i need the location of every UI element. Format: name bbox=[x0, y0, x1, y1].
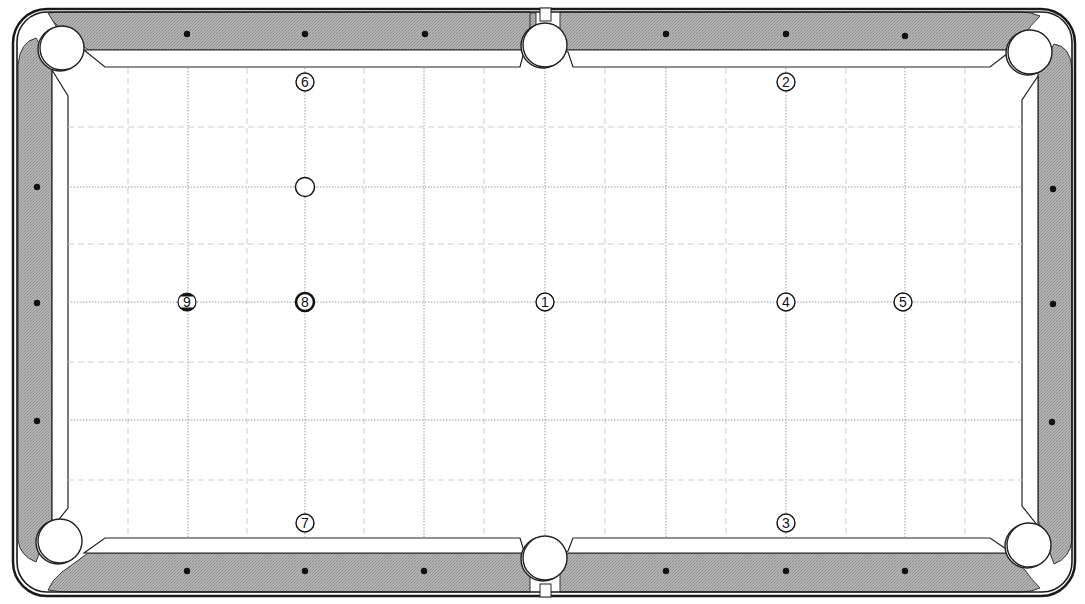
ball-number-label: 2 bbox=[782, 74, 790, 90]
ball-number-label: 4 bbox=[782, 294, 790, 310]
rail-top-left-main bbox=[48, 12, 530, 50]
cushion-bottom-left bbox=[84, 538, 530, 553]
ball-number-label: 3 bbox=[782, 515, 790, 531]
side-pocket-tab-top bbox=[540, 8, 551, 21]
diamond-marker-icon bbox=[34, 300, 40, 306]
ball-4: 4 bbox=[777, 293, 795, 311]
ball-number-label: 5 bbox=[899, 294, 907, 310]
ball-number-label: 1 bbox=[541, 294, 549, 310]
cushion-top-left bbox=[84, 50, 530, 67]
diamond-marker-icon bbox=[302, 31, 308, 37]
ball-number-label: 8 bbox=[301, 294, 309, 310]
diamond-marker-icon bbox=[1049, 419, 1055, 425]
pocket-bottom-right bbox=[1005, 523, 1051, 568]
pool-table-diagram: 123456789 bbox=[0, 0, 1085, 604]
diamond-marker-icon bbox=[663, 31, 669, 37]
cushion-bottom-right bbox=[562, 538, 1012, 553]
diamond-marker-icon bbox=[184, 31, 190, 37]
pool-table: 123456789 bbox=[0, 0, 1085, 604]
diamond-marker-icon bbox=[34, 418, 40, 424]
ball-2: 2 bbox=[777, 73, 795, 91]
ball-number-label: 7 bbox=[301, 515, 309, 531]
cushion-right bbox=[1022, 76, 1038, 526]
rail-bottom-right-main bbox=[560, 553, 1040, 592]
diamond-marker-icon bbox=[902, 568, 908, 574]
cue-ball bbox=[296, 178, 315, 197]
diamond-marker-icon bbox=[34, 184, 40, 190]
diamond-marker-icon bbox=[902, 33, 908, 39]
diamond-marker-icon bbox=[422, 31, 428, 37]
diamond-marker-icon bbox=[783, 568, 789, 574]
ball-7: 7 bbox=[296, 514, 314, 532]
ball-number-label: 9 bbox=[183, 294, 191, 310]
rail-left bbox=[18, 38, 52, 562]
diamond-marker-icon bbox=[302, 568, 308, 574]
pocket-top-left bbox=[38, 26, 84, 71]
ball-1: 1 bbox=[536, 293, 554, 311]
ball-6: 6 bbox=[296, 73, 314, 91]
side-pocket-tab-bottom bbox=[540, 584, 551, 597]
diamond-marker-icon bbox=[663, 568, 669, 574]
pocket-bottom-left bbox=[36, 519, 82, 564]
pocket-top-side bbox=[521, 23, 567, 68]
ball-number-label: 6 bbox=[301, 74, 309, 90]
diamond-marker-icon bbox=[421, 568, 427, 574]
ball-9: 9 bbox=[178, 293, 196, 311]
pocket-top-right bbox=[1006, 30, 1052, 75]
ball-8: 8 bbox=[296, 293, 314, 311]
ball-5: 5 bbox=[894, 293, 912, 311]
diamond-marker-icon bbox=[783, 31, 789, 37]
cushion-left bbox=[52, 70, 68, 528]
diamond-marker-icon bbox=[1050, 301, 1056, 307]
ball-3: 3 bbox=[777, 514, 795, 532]
pocket-bottom-side bbox=[521, 536, 567, 581]
cushion-top-right bbox=[562, 50, 1012, 67]
diamond-marker-icon bbox=[1050, 186, 1056, 192]
rail-bottom-left-main bbox=[48, 553, 530, 592]
rail-top-right-main bbox=[560, 12, 1040, 50]
diamond-marker-icon bbox=[184, 568, 190, 574]
